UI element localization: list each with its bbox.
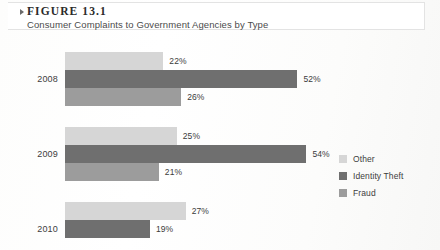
bar-identity-theft-2010[interactable]: [65, 220, 150, 238]
figure-header: FIGURE 13.1 Consumer Complaints to Gover…: [8, 2, 425, 30]
bar-identity-theft-2009[interactable]: [65, 145, 306, 163]
bar-value-label: 25%: [183, 131, 200, 141]
bar-value-label: 26%: [187, 92, 204, 102]
year-label-2010: 2010: [22, 224, 58, 234]
bar-value-label: 19%: [156, 224, 173, 234]
legend-swatch-icon: [339, 172, 347, 180]
figure-number-label: FIGURE 13.1: [27, 5, 107, 17]
bar-row: 19%: [65, 220, 440, 238]
bar-value-label: 21%: [165, 167, 182, 177]
legend-item-fraud[interactable]: Fraud: [339, 185, 437, 200]
bar-chart: 200822%52%26%200925%54%21%201027%19%: [0, 30, 440, 250]
legend-item-identity-theft[interactable]: Identity Theft: [339, 168, 437, 183]
bar-group-2010: 201027%19%: [0, 202, 440, 250]
bar-other-2008[interactable]: [65, 52, 163, 70]
bar-value-label: 22%: [169, 56, 186, 66]
bar-row: 25%: [65, 127, 440, 145]
bar-value-label: 54%: [312, 149, 329, 159]
bar-group-2008: 200822%52%26%: [0, 52, 440, 106]
year-label-2008: 2008: [22, 74, 58, 84]
legend-item-other[interactable]: Other: [339, 151, 437, 166]
figure-title: Consumer Complaints to Government Agenci…: [27, 19, 268, 30]
bar-value-label: 52%: [303, 74, 320, 84]
legend-label: Other: [353, 154, 375, 164]
bar-fraud-2009[interactable]: [65, 163, 159, 181]
legend-label: Identity Theft: [353, 171, 403, 181]
bar-other-2010[interactable]: [65, 202, 186, 220]
year-label-2009: 2009: [22, 149, 58, 159]
bar-row: 52%: [65, 70, 440, 88]
legend-swatch-icon: [339, 155, 347, 163]
triangle-collapse-icon[interactable]: [20, 9, 24, 15]
figure-page: FIGURE 13.1 Consumer Complaints to Gover…: [0, 0, 440, 250]
legend-swatch-icon: [339, 189, 347, 197]
legend-label: Fraud: [353, 188, 376, 198]
bar-row: 26%: [65, 88, 440, 106]
bar-other-2009[interactable]: [65, 127, 177, 145]
bar-row: 22%: [65, 52, 440, 70]
chart-legend: OtherIdentity TheftFraud: [339, 151, 437, 202]
bar-fraud-2008[interactable]: [65, 88, 181, 106]
bar-row: 27%: [65, 202, 440, 220]
bar-identity-theft-2008[interactable]: [65, 70, 297, 88]
bar-value-label: 27%: [192, 206, 209, 216]
